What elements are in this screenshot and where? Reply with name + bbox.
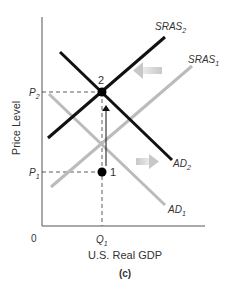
x-axis-title: U.S. Real GDP [88,249,162,261]
point-1-label: 1 [110,166,116,178]
equilibrium-point-2 [98,88,107,97]
q1-tick-label: Q1 [96,234,108,247]
ad1-curve [49,94,165,205]
p1-tick-label: P1 [29,167,40,180]
sras1-label: SRAS1 [188,54,219,67]
p2-tick-label: P2 [29,87,40,100]
equilibrium-point-1 [98,168,107,177]
sras2-label: SRAS2 [155,21,186,34]
sras1-curve [51,66,192,187]
as-ad-diagram: 2 1 SRAS2 SRAS1 AD2 AD1 P2 P1 0 Q1 U.S. … [0,0,228,288]
ad2-label: AD2 [172,158,191,171]
point-2-label: 2 [98,74,104,86]
panel-label: (c) [119,268,131,279]
origin-label: 0 [31,233,37,244]
y-axis-title: Price Level [10,101,22,155]
ad-shift-arrow-icon [136,154,159,169]
ad1-label: AD1 [167,204,186,217]
sras-shift-arrow-icon [133,62,162,79]
